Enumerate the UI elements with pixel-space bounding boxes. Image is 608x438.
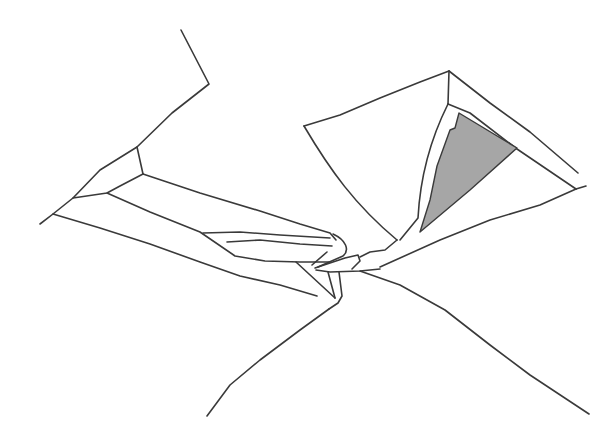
knot-upper-connect <box>360 240 397 257</box>
knot-drop <box>329 272 342 309</box>
inner-strip <box>203 232 380 309</box>
strip-top <box>203 232 330 238</box>
illustration-canvas <box>0 0 608 438</box>
knot-cross-1 <box>312 252 327 265</box>
flap-tick <box>576 186 586 189</box>
lower-left-line <box>207 309 329 416</box>
left-band <box>40 30 336 296</box>
right-flap <box>304 71 586 267</box>
flap-top-edge <box>304 71 449 126</box>
knot-base <box>316 269 380 272</box>
band-top-edge <box>143 174 336 240</box>
strip-bottom <box>227 240 332 246</box>
left-fold-crease <box>137 147 143 174</box>
shaded-triangle <box>420 113 517 232</box>
flap-inner-vertical <box>448 71 449 104</box>
left-outer-edge <box>40 30 209 224</box>
lower-right-line <box>360 271 589 414</box>
band-middle-edge <box>107 193 330 262</box>
flap-left-curve <box>304 126 397 240</box>
